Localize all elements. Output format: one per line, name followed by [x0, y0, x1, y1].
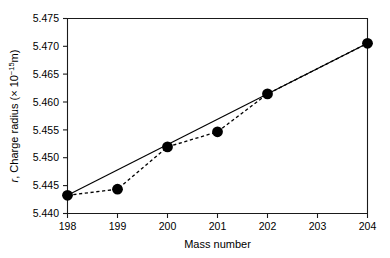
data-point-marker: [262, 89, 273, 100]
y-axis-title-exponent: −15: [7, 62, 16, 75]
charge-radius-line-chart: 5.440 5.445 5.450 5.455 5.460 5.465 5.47…: [0, 0, 390, 258]
y-axis-ticks: [63, 19, 68, 214]
y-tick-label: 5.450: [33, 151, 59, 163]
data-point-marker: [362, 38, 373, 49]
y-tick-label: 5.475: [33, 12, 59, 24]
y-axis-title-suffix: m): [8, 50, 20, 63]
y-tick-label: 5.470: [33, 40, 59, 52]
x-tick-label: 201: [209, 220, 227, 232]
y-tick-label: 5.465: [33, 68, 59, 80]
data-point-marker: [62, 190, 73, 201]
x-tick-label: 203: [309, 220, 327, 232]
x-tick-label: 200: [159, 220, 177, 232]
x-tick-label: 202: [259, 220, 277, 232]
x-tick-label: 204: [359, 220, 377, 232]
data-point-marker: [212, 126, 223, 137]
plot-frame: [68, 19, 368, 214]
chart-figure: 5.440 5.445 5.450 5.455 5.460 5.465 5.47…: [0, 0, 390, 258]
x-axis-tick-labels: 198 199 200 201 202 203 204: [59, 220, 377, 232]
x-tick-label: 199: [109, 220, 127, 232]
y-axis-title-rest: , Charge radius (× 10: [8, 75, 20, 179]
y-tick-label: 5.445: [33, 179, 59, 191]
y-tick-label: 5.455: [33, 124, 59, 136]
data-point-marker: [162, 142, 173, 153]
x-axis-title: Mass number: [184, 238, 251, 250]
y-tick-label: 5.440: [33, 207, 59, 219]
x-axis-ticks: [68, 214, 368, 219]
y-axis-tick-labels: 5.440 5.445 5.450 5.455 5.460 5.465 5.47…: [33, 12, 59, 219]
svg-text:r, Charge radius (× 10−15m): r, Charge radius (× 10−15m): [7, 50, 20, 183]
data-point-marker: [112, 184, 123, 195]
x-tick-label: 198: [59, 220, 77, 232]
y-tick-label: 5.460: [33, 96, 59, 108]
y-axis-title: r, Charge radius (× 10−15m): [7, 50, 20, 183]
